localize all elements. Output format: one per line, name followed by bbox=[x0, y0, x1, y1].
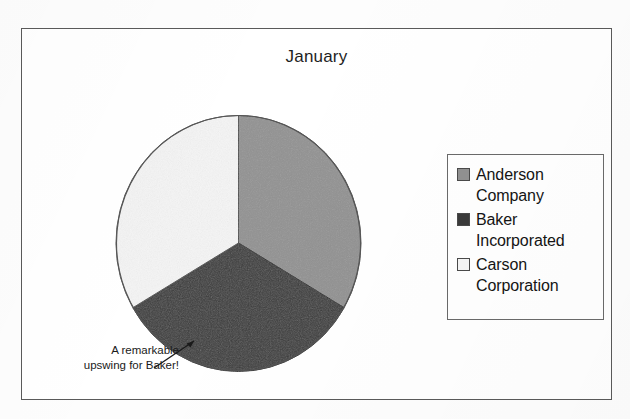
legend: Anderson Company Baker Incorporated Cars… bbox=[447, 154, 604, 320]
legend-label-anderson-line2: Company bbox=[476, 185, 544, 206]
page-title: January bbox=[22, 47, 611, 67]
legend-label-anderson: Anderson Company bbox=[476, 164, 544, 206]
legend-swatch-anderson bbox=[457, 168, 470, 181]
legend-label-carson-line2: Corporation bbox=[476, 275, 559, 296]
legend-label-carson: Carson Corporation bbox=[476, 254, 559, 296]
legend-item-baker[interactable]: Baker Incorporated bbox=[457, 209, 597, 251]
chart-page: January bbox=[0, 0, 630, 419]
legend-label-carson-line1: Carson bbox=[476, 256, 527, 273]
legend-label-baker-line1: Baker bbox=[476, 211, 517, 228]
chart-frame: January bbox=[21, 28, 612, 400]
callout-arrow-icon bbox=[150, 333, 210, 373]
legend-label-baker-line2: Incorporated bbox=[476, 230, 565, 251]
legend-item-carson[interactable]: Carson Corporation bbox=[457, 254, 597, 296]
legend-label-baker: Baker Incorporated bbox=[476, 209, 565, 251]
legend-label-anderson-line1: Anderson bbox=[476, 166, 544, 183]
legend-item-anderson[interactable]: Anderson Company bbox=[457, 164, 597, 206]
legend-swatch-carson bbox=[457, 258, 470, 271]
legend-swatch-baker bbox=[457, 213, 470, 226]
